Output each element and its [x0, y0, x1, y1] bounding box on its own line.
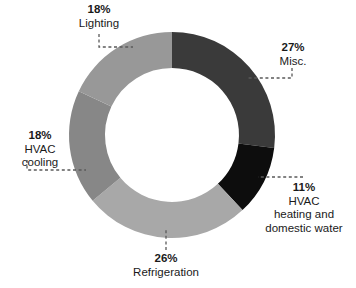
slice-label-lighting: 18% Lighting — [56, 3, 142, 30]
slice-label-misc: 27% Misc. — [256, 41, 330, 68]
slice-label-hvac-cooling-name-line2: cooling — [2, 156, 78, 170]
slice-label-hvac-heating-name-line1: HVAC — [252, 195, 356, 209]
slice-label-hvac-heating-name-line3: domestic water — [252, 222, 356, 236]
slice-label-refrigeration: 26% Refrigeration — [111, 252, 221, 279]
slice-label-hvac-heating-name-line2: heating and — [252, 208, 356, 222]
slice-label-hvac-heating-percent: 11% — [252, 181, 356, 195]
slice-label-misc-percent: 27% — [256, 41, 330, 55]
slice-label-refrigeration-percent: 26% — [111, 252, 221, 266]
slice-lighting[interactable] — [79, 32, 172, 106]
donut-chart: 18% Lighting 27% Misc. 11% HVAC heating … — [0, 0, 356, 288]
slice-label-hvac-cooling-name-line1: HVAC — [2, 143, 78, 157]
donut-slices — [69, 32, 275, 238]
slice-label-hvac-cooling: 18% HVAC cooling — [2, 129, 78, 170]
slice-label-hvac-cooling-percent: 18% — [2, 129, 78, 143]
slice-refrigeration[interactable] — [93, 178, 243, 238]
slice-label-hvac-heating: 11% HVAC heating and domestic water — [252, 181, 356, 235]
slice-label-lighting-percent: 18% — [56, 3, 142, 17]
slice-label-lighting-name: Lighting — [56, 17, 142, 31]
slice-label-misc-name: Misc. — [256, 55, 330, 69]
slice-label-refrigeration-name: Refrigeration — [111, 266, 221, 280]
